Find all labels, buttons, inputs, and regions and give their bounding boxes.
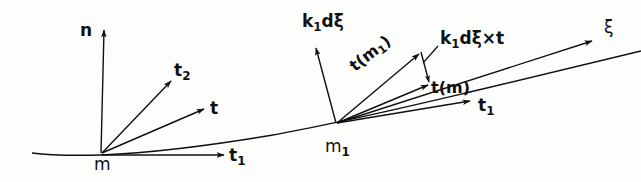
vector-t2 — [102, 81, 171, 153]
label-axis-xi: ξ — [604, 19, 613, 36]
vector-k1-dxi-cross-t — [421, 52, 429, 82]
label-point-m1: m1 — [325, 138, 350, 155]
label-tangent-at-m: t(m) — [431, 80, 470, 96]
vector-k1-dxi — [316, 48, 336, 123]
vector-t-m — [337, 85, 428, 123]
vector-t1-at-m1 — [337, 101, 470, 123]
label-point-m: m — [94, 156, 111, 173]
cross-product-leader-line — [423, 46, 438, 63]
vector-t — [102, 109, 204, 153]
label-tangent-t2: t2 — [174, 62, 190, 79]
vector-diagram-figure: n t2 t t1 m k1dξ t(m1) k1dξ×t t(m) t1 m1… — [0, 0, 641, 182]
label-curvature-vector-k1-dxi: k1dξ — [302, 13, 344, 30]
label-tangent-t1-left: t1 — [229, 147, 245, 164]
label-normal-n: n — [80, 22, 92, 39]
label-tangent-t: t — [210, 100, 218, 117]
vector-n — [101, 30, 104, 153]
label-tangent-t1-right: t1 — [478, 97, 494, 114]
label-cross-product-k1-dxi-cross-t: k1dξ×t — [440, 30, 504, 47]
